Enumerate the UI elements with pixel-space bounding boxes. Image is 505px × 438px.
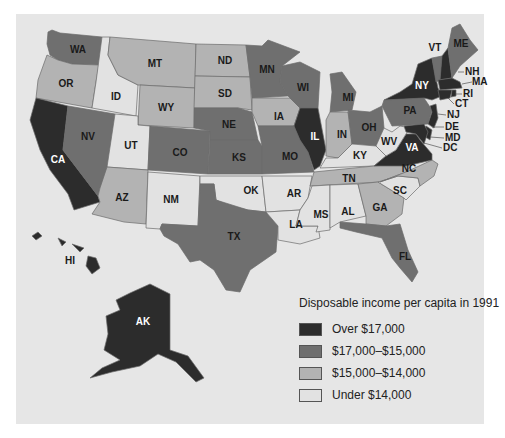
label-TX: TX (228, 231, 241, 242)
label-OR: OR (59, 78, 75, 89)
label-NJ: NJ (447, 109, 460, 120)
state-RI (451, 90, 456, 97)
label-HI: HI (65, 255, 75, 266)
label-MI: MI (342, 92, 353, 103)
label-AL: AL (341, 206, 354, 217)
label-KS: KS (232, 152, 246, 163)
label-WV: WV (381, 136, 397, 147)
legend-title: Disposable income per capita in 1991 (299, 296, 489, 310)
legend-item-under-14000: Under $14,000 (299, 384, 489, 406)
label-OK: OK (244, 185, 260, 196)
legend-swatch (299, 389, 322, 402)
label-AK: AK (136, 316, 151, 327)
label-AR: AR (287, 188, 302, 199)
label-CO: CO (173, 147, 188, 158)
legend-item-over-17000: Over $17,000 (299, 318, 489, 340)
label-PA: PA (403, 105, 416, 116)
label-DE: DE (445, 121, 459, 132)
label-DC: DC (443, 142, 457, 153)
label-LA: LA (289, 219, 302, 230)
legend-item-17000-15000: $17,000–$15,000 (299, 340, 489, 362)
label-WY: WY (158, 102, 174, 113)
label-FL: FL (399, 251, 411, 262)
label-NE: NE (222, 119, 236, 130)
label-MS: MS (314, 209, 329, 220)
label-NC: NC (402, 163, 416, 174)
label-UT: UT (124, 140, 137, 151)
legend-swatch (299, 345, 322, 358)
label-MA: MA (472, 76, 488, 87)
legend-swatch (299, 323, 322, 336)
legend-item-15000-14000: $15,000–$14,000 (299, 362, 489, 384)
label-VA: VA (405, 142, 418, 153)
label-MN: MN (259, 64, 275, 75)
label-WI: WI (297, 82, 309, 93)
label-ND: ND (218, 55, 232, 66)
state-MA (438, 78, 462, 90)
label-IA: IA (274, 111, 284, 122)
label-OH: OH (362, 122, 377, 133)
label-ME: ME (454, 38, 469, 49)
label-AZ: AZ (115, 192, 128, 203)
label-CT: CT (455, 98, 468, 109)
label-TN: TN (342, 173, 355, 184)
label-MO: MO (282, 151, 298, 162)
legend-swatch (299, 367, 322, 380)
legend-label: Under $14,000 (332, 388, 411, 402)
label-IL: IL (311, 131, 320, 142)
label-SD: SD (218, 88, 232, 99)
label-WA: WA (70, 44, 86, 55)
label-NV: NV (81, 131, 95, 142)
state-CT (438, 90, 452, 100)
label-KY: KY (353, 150, 367, 161)
state-AK (90, 284, 204, 382)
legend-label: Over $17,000 (332, 322, 405, 336)
legend-label: $17,000–$15,000 (332, 344, 425, 358)
label-ID: ID (111, 91, 121, 102)
label-NM: NM (163, 194, 179, 205)
legend-label: $15,000–$14,000 (332, 366, 425, 380)
label-MT: MT (148, 58, 162, 69)
label-GA: GA (373, 202, 388, 213)
label-NY: NY (415, 80, 429, 91)
state-HI (32, 232, 100, 274)
legend: Disposable income per capita in 1991 Ove… (299, 296, 489, 406)
label-SC: SC (393, 185, 407, 196)
label-IN: IN (337, 129, 347, 140)
label-CA: CA (51, 154, 65, 165)
label-VT: VT (429, 42, 442, 53)
